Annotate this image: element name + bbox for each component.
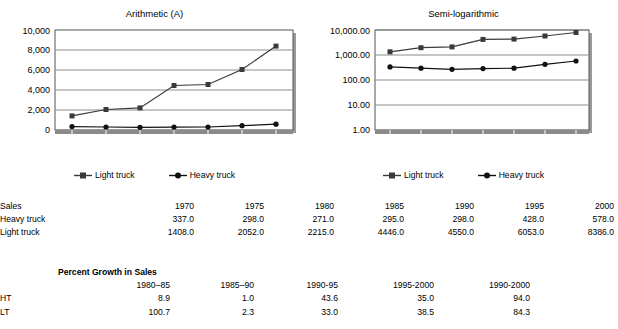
- legend-label-heavy-truck: Heavy truck: [190, 170, 235, 181]
- sales-heavy-1995: 428.0: [474, 213, 544, 226]
- sales-light-1980: 2215.0: [264, 226, 334, 239]
- legend-label-heavy-truck: Heavy truck: [499, 170, 544, 181]
- y-axis-labels: 1.00 10.00 100.00 1,000.00 10,000.00: [330, 26, 370, 135]
- plot-frame: [55, 30, 293, 130]
- y-tick-1000: 1,000.00: [335, 50, 370, 60]
- sales-col-1985: 1985: [334, 200, 404, 213]
- growth-col-1980-85: 1980–85: [86, 279, 170, 292]
- growth-ht-1990-95: 43.6: [254, 292, 338, 305]
- sales-heavy-1990: 298.0: [404, 213, 474, 226]
- chart-arithmetic: Arithmetic (A) 0 2,000 4,000 6,000 8,000: [0, 0, 309, 192]
- growth-table: Percent Growth in Sales 1980–85 1985–90 …: [0, 266, 618, 319]
- legend-label-light-truck: Light truck: [404, 170, 444, 181]
- sales-light-1985: 4446.0: [334, 226, 404, 239]
- growth-table-grid: 1980–85 1985–90 1990-95 1995-2000 1990-2…: [0, 279, 530, 319]
- legend-label-light-truck: Light truck: [95, 170, 135, 181]
- growth-col-1990-95: 1990-95: [254, 279, 338, 292]
- sales-light-2000: 8386.0: [544, 226, 614, 239]
- growth-lt-1985-90: 2.3: [170, 306, 254, 319]
- sales-light-1990: 4550.0: [404, 226, 474, 239]
- legend-item-heavy-truck: Heavy truck: [478, 170, 544, 181]
- y-tick-10000: 10,000: [22, 26, 50, 36]
- growth-col-1995-2000: 1995-2000: [338, 279, 434, 292]
- growth-row-label-ht: HT: [0, 292, 86, 305]
- y-tick-10: 10.00: [347, 100, 370, 110]
- chart-semilogarithmic-legend: Light truck Heavy truck: [309, 170, 618, 181]
- x-axis-strip: [375, 130, 589, 134]
- chart-arithmetic-title: Arithmetic (A): [0, 8, 309, 20]
- sales-col-2000: 2000: [544, 200, 614, 213]
- sales-heavy-2000: 578.0: [544, 213, 614, 226]
- sales-col-1995: 1995: [474, 200, 544, 213]
- sales-col-1980: 1980: [264, 200, 334, 213]
- chart-semilogarithmic: Semi-logarithmic 1.00 10.00 100.00 1,000…: [309, 0, 618, 192]
- y-tick-1: 1.00: [352, 125, 370, 135]
- table-row: LT 100.7 2.3 33.0 38.5 84.3: [0, 306, 530, 319]
- table-row: Light truck 1408.0 2052.0 2215.0 4446.0 …: [0, 226, 614, 239]
- sales-col-1970: 1970: [124, 200, 194, 213]
- legend-item-heavy-truck: Heavy truck: [169, 170, 235, 181]
- chart-semilogarithmic-title: Semi-logarithmic: [309, 8, 618, 20]
- sales-heavy-1980: 271.0: [264, 213, 334, 226]
- square-marker-icon: [383, 171, 401, 180]
- growth-col-1990-2000: 1990-2000: [434, 279, 530, 292]
- chart-arithmetic-plot: 0 2,000 4,000 6,000 8,000 10,000: [0, 26, 309, 138]
- y-tick-100: 100.00: [342, 75, 370, 85]
- chart-semilogarithmic-plot: 1.00 10.00 100.00 1,000.00 10,000.00: [309, 26, 618, 138]
- growth-row-label-lt: LT: [0, 306, 86, 319]
- growth-ht-1995-2000: 35.0: [338, 292, 434, 305]
- semilog-svg: 1.00 10.00 100.00 1,000.00 10,000.00: [309, 26, 618, 138]
- y-tick-2000: 2,000: [27, 105, 50, 115]
- table-row: HT 8.9 1.0 43.6 35.0 94.0: [0, 292, 530, 305]
- growth-ht-1990-2000: 94.0: [434, 292, 530, 305]
- sales-col-1975: 1975: [194, 200, 264, 213]
- table-row: Heavy truck 337.0 298.0 271.0 295.0 298.…: [0, 213, 614, 226]
- sales-corner-label: Sales: [0, 200, 124, 213]
- growth-col-1985-90: 1985–90: [170, 279, 254, 292]
- sales-row-label-heavy-truck: Heavy truck: [0, 213, 124, 226]
- chart-arithmetic-legend: Light truck Heavy truck: [0, 170, 309, 181]
- square-marker-icon: [74, 171, 92, 180]
- y-tick-10000: 10,000.00: [330, 26, 370, 36]
- sales-heavy-1975: 298.0: [194, 213, 264, 226]
- sales-light-1975: 2052.0: [194, 226, 264, 239]
- y-tick-8000: 8,000: [27, 45, 50, 55]
- circle-marker-icon: [478, 171, 496, 180]
- growth-corner-blank: [0, 279, 86, 292]
- sales-table: Sales 1970 1975 1980 1985 1990 1995 2000…: [0, 200, 618, 240]
- sales-table-grid: Sales 1970 1975 1980 1985 1990 1995 2000…: [0, 200, 614, 240]
- sales-heavy-1970: 337.0: [124, 213, 194, 226]
- circle-marker-icon: [169, 171, 187, 180]
- y-tick-0: 0: [45, 125, 50, 135]
- y-tick-4000: 4,000: [27, 85, 50, 95]
- sales-light-1970: 1408.0: [124, 226, 194, 239]
- growth-ht-1980-85: 8.9: [86, 292, 170, 305]
- sales-light-1995: 6053.0: [474, 226, 544, 239]
- growth-lt-1995-2000: 38.5: [338, 306, 434, 319]
- growth-table-title: Percent Growth in Sales: [0, 266, 618, 279]
- growth-lt-1990-95: 33.0: [254, 306, 338, 319]
- sales-heavy-1985: 295.0: [334, 213, 404, 226]
- y-tick-6000: 6,000: [27, 65, 50, 75]
- y-axis-labels: 0 2,000 4,000 6,000 8,000 10,000: [22, 26, 50, 135]
- arithmetic-svg: 0 2,000 4,000 6,000 8,000 10,000: [0, 26, 309, 138]
- table-header-row: Sales 1970 1975 1980 1985 1990 1995 2000: [0, 200, 614, 213]
- growth-lt-1980-85: 100.7: [86, 306, 170, 319]
- table-header-row: 1980–85 1985–90 1990-95 1995-2000 1990-2…: [0, 279, 530, 292]
- growth-lt-1990-2000: 84.3: [434, 306, 530, 319]
- sales-row-label-light-truck: Light truck: [0, 226, 124, 239]
- growth-ht-1985-90: 1.0: [170, 292, 254, 305]
- sales-col-1990: 1990: [404, 200, 474, 213]
- legend-item-light-truck: Light truck: [383, 170, 444, 181]
- legend-item-light-truck: Light truck: [74, 170, 135, 181]
